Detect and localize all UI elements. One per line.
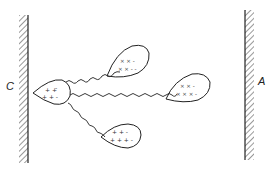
label-a: A	[258, 75, 265, 87]
right-electrode-wall	[245, 10, 254, 160]
svg-text:× × - -: × × - -	[118, 66, 136, 72]
left-electrode-wall	[19, 15, 28, 163]
central-particle: + + + + - -	[33, 80, 70, 105]
diagram-canvas: + + + + - - × × - × × - - × × - × × × - …	[0, 0, 276, 174]
svg-text:× × × -: × × × -	[176, 91, 197, 97]
svg-text:× × -: × × -	[180, 83, 195, 89]
svg-text:× × -: × × -	[120, 58, 135, 64]
label-c: C	[6, 80, 14, 92]
svg-text:-: -	[55, 84, 57, 91]
particle-upper: × × - × × - -	[107, 45, 149, 77]
svg-text:+ + -: + + -	[112, 128, 128, 135]
particle-lower: + + - + + + -	[101, 124, 141, 148]
svg-text:+ + + -: + + + -	[110, 136, 133, 143]
particle-middle-right: × × - × × × -	[166, 74, 210, 102]
svg-text:+ + -: + + -	[42, 93, 58, 100]
